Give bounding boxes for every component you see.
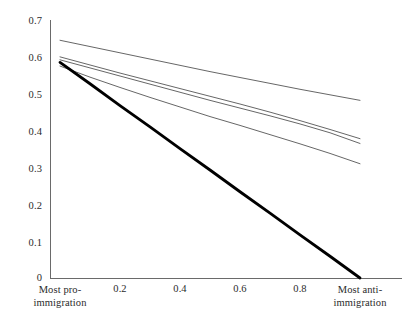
series-line-1-top — [60, 40, 360, 100]
series-line-3 — [60, 60, 360, 144]
series-line-4 — [60, 66, 360, 164]
chart-figure: 0.7 0.6 0.5 0.4 0.3 0.2 0.1 0 Most pro- … — [0, 0, 407, 328]
x-tick-label-left-line1: Most pro- — [39, 284, 82, 295]
x-tick-label-0.4: 0.4 — [150, 283, 210, 294]
series-line-5-bold — [60, 62, 360, 278]
x-tick-label-right-line1: Most anti- — [338, 284, 382, 295]
x-tick-label-right-line2: immigration — [333, 297, 386, 308]
x-tick-label-0.2: 0.2 — [90, 283, 150, 294]
x-tick-label-most-anti-immigration: Most anti- immigration — [317, 283, 403, 309]
plot-area — [0, 0, 407, 328]
series-line-2 — [60, 57, 360, 139]
x-tick-label-0.6: 0.6 — [210, 283, 270, 294]
x-tick-label-left-line2: immigration — [33, 297, 86, 308]
